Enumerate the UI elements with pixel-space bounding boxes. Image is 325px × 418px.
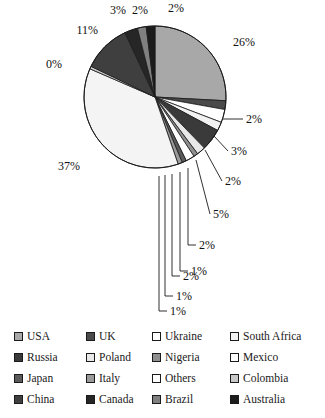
legend-item[interactable]: Brazil [152, 394, 230, 406]
pie-slice [155, 26, 226, 101]
pie-value-label: 2% [168, 1, 184, 15]
legend-item[interactable]: Russia [14, 352, 86, 364]
pie-leader-line [196, 160, 210, 214]
legend-swatch-icon [14, 353, 23, 362]
legend-swatch-icon [14, 332, 23, 341]
pie-leader-line [172, 174, 180, 276]
legend-item-label: South Africa [243, 331, 301, 343]
pie-value-label: 3% [231, 144, 247, 158]
legend-grid: USAUKUkraineSouth AfricaRussiaPolandNige… [14, 326, 317, 410]
pie-leader-line [214, 136, 228, 151]
legend-swatch-icon [230, 353, 239, 362]
pie-value-label: 11% [76, 23, 98, 37]
pie-value-label: 2% [199, 238, 215, 252]
legend-item[interactable]: Colombia [230, 373, 316, 385]
legend-item-label: Others [165, 373, 196, 385]
pie-value-label: 3% [110, 3, 126, 17]
legend-item-label: Colombia [243, 373, 288, 385]
legend-item-label: Australia [243, 394, 285, 406]
legend-swatch-icon [14, 395, 23, 404]
pie-value-label: 1% [176, 289, 192, 303]
legend-item[interactable]: Others [152, 373, 230, 385]
legend-item[interactable]: Poland [86, 352, 152, 364]
pie-value-label: 2% [225, 174, 241, 188]
pie-value-label: 2% [183, 269, 199, 283]
legend-item[interactable]: Australia [230, 394, 316, 406]
legend-item[interactable]: Italy [86, 373, 152, 385]
legend-item[interactable]: Ukraine [152, 331, 230, 343]
legend-swatch-icon [152, 395, 161, 404]
pie-value-label: 0% [46, 57, 62, 71]
pie-value-label: 5% [213, 207, 229, 221]
legend-item-label: Canada [99, 394, 133, 406]
legend-item[interactable]: USA [14, 331, 86, 343]
legend-item-label: Brazil [165, 394, 193, 406]
pie-chart-svg: 26%37%0%11%3%2%2%2%3%2%5%2%1%2%1%1% [0, 0, 325, 318]
legend-item[interactable]: Canada [86, 394, 152, 406]
chart-legend: USAUKUkraineSouth AfricaRussiaPolandNige… [0, 322, 325, 418]
legend-swatch-icon [152, 374, 161, 383]
pie-chart-figure: 26%37%0%11%3%2%2%2%3%2%5%2%1%2%1%1% [0, 0, 325, 318]
pie-value-label: 37% [58, 159, 80, 173]
legend-swatch-icon [230, 395, 239, 404]
legend-item-label: Mexico [243, 352, 278, 364]
legend-item-label: China [27, 394, 54, 406]
legend-swatch-icon [86, 353, 95, 362]
pie-slices-group [84, 26, 226, 168]
legend-item-label: Japan [27, 373, 53, 385]
legend-item[interactable]: Mexico [230, 352, 316, 364]
legend-swatch-icon [230, 374, 239, 383]
legend-item[interactable]: China [14, 394, 86, 406]
legend-swatch-icon [230, 332, 239, 341]
legend-item[interactable]: UK [86, 331, 152, 343]
pie-leader-line [205, 150, 222, 181]
legend-item-label: Poland [99, 352, 131, 364]
legend-swatch-icon [86, 374, 95, 383]
pie-value-label: 2% [246, 112, 262, 126]
legend-item[interactable]: Japan [14, 373, 86, 385]
legend-item[interactable]: South Africa [230, 331, 316, 343]
legend-item-label: Italy [99, 373, 120, 385]
legend-item-label: UK [99, 331, 116, 343]
legend-item-label: Russia [27, 352, 58, 364]
pie-leader-line [188, 168, 196, 245]
pie-leader-line [159, 176, 167, 311]
legend-swatch-icon [152, 353, 161, 362]
pie-value-label: 2% [132, 3, 148, 17]
legend-swatch-icon [86, 332, 95, 341]
pie-value-label: 1% [170, 304, 186, 318]
legend-item-label: USA [27, 331, 50, 343]
pie-value-label: 26% [233, 35, 255, 49]
legend-swatch-icon [86, 395, 95, 404]
pie-leader-line [180, 172, 188, 271]
legend-item-label: Nigeria [165, 352, 199, 364]
legend-swatch-icon [152, 332, 161, 341]
legend-item-label: Ukraine [165, 331, 202, 343]
legend-swatch-icon [14, 374, 23, 383]
legend-item[interactable]: Nigeria [152, 352, 230, 364]
